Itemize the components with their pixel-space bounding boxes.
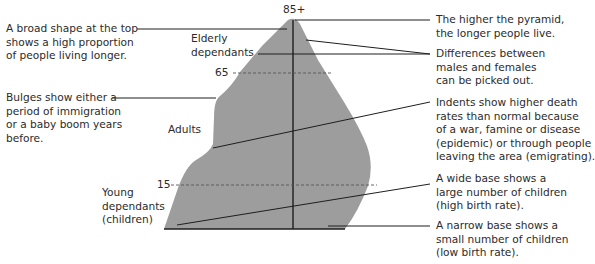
- annotation-male-female: Differences between males and females ca…: [436, 47, 545, 88]
- annotation-wide-base: A wide base shows a large number of chil…: [436, 172, 567, 213]
- annotation-bulges: Bulges show either a period of immigrati…: [6, 91, 122, 145]
- age-label-85plus: 85+: [283, 3, 305, 17]
- annotation-narrow-base: A narrow base shows a small number of ch…: [436, 219, 568, 260]
- age-label-65: 65: [215, 66, 228, 80]
- group-label-young: Young dependants (children): [102, 186, 165, 227]
- group-label-adults: Adults: [168, 123, 201, 137]
- group-label-elderly: Elderly dependants: [191, 32, 254, 59]
- leader-male-female-1: [306, 40, 430, 54]
- annotation-broad-top: A broad shape at the top shows a high pr…: [6, 22, 138, 63]
- annotation-indents: Indents show higher death rates than nor…: [436, 96, 595, 164]
- annotation-higher-pyramid: The higher the pyramid, the longer peopl…: [436, 13, 564, 40]
